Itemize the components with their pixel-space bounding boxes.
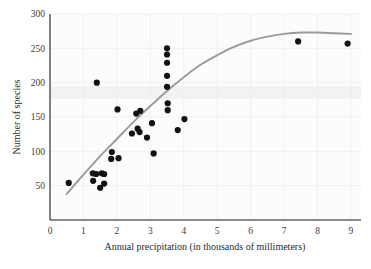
data-point — [164, 73, 170, 79]
scatter-plot-figure: 0123456789 50100150200250300 Annual prec… — [0, 0, 371, 269]
data-point — [129, 130, 135, 136]
y-tick-label: 250 — [31, 44, 46, 54]
data-point — [94, 80, 100, 86]
x-tick-label: 0 — [48, 226, 53, 236]
data-point — [144, 135, 150, 141]
data-point — [137, 108, 143, 114]
data-point — [175, 127, 181, 133]
y-tick-label: 200 — [31, 78, 46, 88]
x-tick-label: 9 — [349, 226, 354, 236]
data-point — [101, 171, 107, 177]
data-point — [295, 38, 301, 44]
x-tick-label: 5 — [215, 226, 220, 236]
data-point — [151, 150, 157, 156]
data-point — [114, 106, 120, 112]
data-point — [164, 45, 170, 51]
y-axis-tick-labels: 50100150200250300 — [31, 9, 46, 191]
x-tick-label: 4 — [181, 226, 186, 236]
x-tick-label: 3 — [148, 226, 153, 236]
data-point — [109, 149, 115, 155]
x-tick-label: 1 — [81, 226, 86, 236]
data-point — [135, 126, 141, 132]
y-tick-label: 50 — [36, 181, 46, 191]
x-tick-label: 2 — [115, 226, 120, 236]
data-point — [115, 155, 121, 161]
y-tick-label: 150 — [31, 112, 46, 122]
data-point — [66, 180, 72, 186]
x-tick-label: 8 — [315, 226, 320, 236]
data-point — [165, 107, 171, 113]
y-axis-title: Number of species — [11, 79, 22, 154]
y-tick-label: 300 — [31, 9, 46, 19]
data-point — [345, 40, 351, 46]
x-axis-tick-labels: 0123456789 — [48, 226, 354, 236]
data-point — [164, 51, 170, 57]
data-point — [90, 178, 96, 184]
data-point — [164, 84, 170, 90]
data-point — [164, 60, 170, 66]
data-point — [93, 171, 99, 177]
x-tick-label: 7 — [282, 226, 287, 236]
x-axis-title: Annual precipitation (in thousands of mi… — [105, 241, 306, 253]
x-tick-label: 6 — [248, 226, 253, 236]
data-point — [165, 100, 171, 106]
data-point — [108, 156, 114, 162]
data-point — [149, 120, 155, 126]
data-point — [181, 116, 187, 122]
chart-canvas: 0123456789 50100150200250300 Annual prec… — [0, 0, 371, 269]
data-point — [101, 181, 107, 187]
y-tick-label: 100 — [31, 147, 46, 157]
